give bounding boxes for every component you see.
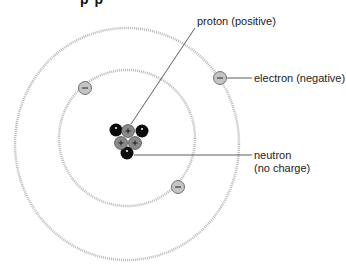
neutron-label-line2: (no charge) [254, 162, 310, 175]
proton [115, 137, 128, 150]
neutron-label-line1: neutron [254, 149, 310, 162]
neutron [136, 125, 149, 138]
atom-diagram [0, 0, 346, 270]
neutron [110, 124, 123, 137]
electron [214, 72, 227, 85]
nucleus [110, 124, 149, 160]
proton-leader-line [131, 28, 195, 124]
proton [122, 125, 135, 138]
proton [129, 137, 142, 150]
electron [172, 181, 185, 194]
electron [79, 82, 92, 95]
proton-label: proton (positive) [197, 15, 276, 28]
electron-label: electron (negative) [254, 72, 345, 85]
neutron-label: neutron (no charge) [254, 149, 310, 175]
